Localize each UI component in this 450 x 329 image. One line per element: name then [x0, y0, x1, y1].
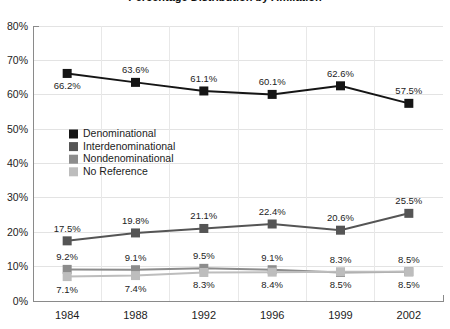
data-point-label: 60.1%	[259, 76, 286, 87]
data-point-marker	[63, 272, 72, 281]
legend-label: Denominational	[83, 127, 156, 139]
data-point-label: 61.1%	[190, 73, 217, 84]
data-point-label: 8.3%	[193, 279, 215, 290]
legend: DenominationalInterdenominationalNondeno…	[69, 127, 175, 177]
data-point-marker	[268, 220, 277, 229]
y-axis-tick-label: 60%	[7, 88, 28, 100]
data-point-label: 25.5%	[395, 195, 422, 206]
y-axis-tick-label: 10%	[7, 260, 28, 272]
x-axis-tick-label: 1992	[192, 309, 216, 321]
data-point-marker	[404, 99, 413, 108]
data-point-marker	[268, 268, 277, 277]
data-point-label: 20.6%	[327, 212, 354, 223]
data-point-marker	[199, 224, 208, 233]
data-point-label: 9.2%	[56, 251, 78, 262]
chart-container: Percentage Distribution by Affiliation 0…	[0, 0, 450, 329]
legend-label: Interdenominational	[83, 140, 175, 152]
chart-title: Percentage Distribution by Affiliation	[0, 0, 450, 3]
legend-label: No Reference	[83, 165, 148, 177]
x-axis-tick-label: 1984	[55, 309, 79, 321]
data-point-marker	[199, 86, 208, 95]
data-point-label: 66.2%	[54, 80, 81, 91]
data-point-label: 8.4%	[261, 279, 283, 290]
data-point-label: 8.5%	[398, 254, 420, 265]
data-point-marker	[404, 209, 413, 218]
legend-swatch	[69, 142, 78, 151]
legend-swatch	[69, 167, 78, 176]
line-chart: 0%10%20%30%40%50%60%70%80%19841988199219…	[0, 0, 450, 329]
data-point-marker	[336, 81, 345, 90]
legend-swatch	[69, 155, 78, 164]
data-point-marker	[268, 90, 277, 99]
x-axis-tick-label: 1988	[123, 309, 147, 321]
data-point-label: 19.8%	[122, 215, 149, 226]
data-point-label: 9.1%	[125, 252, 147, 263]
data-point-marker	[199, 268, 208, 277]
x-axis-tick-label: 1996	[260, 309, 284, 321]
data-point-label: 63.6%	[122, 64, 149, 75]
y-axis-tick-label: 40%	[7, 157, 28, 169]
data-point-label: 17.5%	[54, 223, 81, 234]
legend-label: Nondenominational	[83, 152, 173, 164]
y-axis-tick-label: 0%	[13, 295, 28, 307]
data-point-label: 7.1%	[56, 284, 78, 295]
data-point-label: 8.3%	[330, 254, 352, 265]
x-axis-tick-label: 2002	[397, 309, 421, 321]
data-point-label: 9.5%	[193, 250, 215, 261]
data-point-marker	[131, 78, 140, 87]
y-axis-tick-label: 20%	[7, 226, 28, 238]
legend-swatch	[69, 130, 78, 139]
data-point-label: 57.5%	[395, 85, 422, 96]
x-axis-tick-label: 1999	[328, 309, 352, 321]
y-axis-tick-label: 30%	[7, 191, 28, 203]
data-point-label: 8.5%	[330, 279, 352, 290]
y-axis-tick-label: 70%	[7, 54, 28, 66]
data-point-label: 9.1%	[261, 252, 283, 263]
data-point-marker	[336, 226, 345, 235]
data-point-marker	[131, 271, 140, 280]
data-point-marker	[336, 267, 345, 276]
data-point-label: 8.5%	[398, 279, 420, 290]
data-point-marker	[63, 236, 72, 245]
data-point-marker	[404, 267, 413, 276]
data-point-label: 21.1%	[190, 210, 217, 221]
y-axis-tick-label: 80%	[7, 20, 28, 32]
data-point-label: 62.6%	[327, 68, 354, 79]
y-axis-tick-label: 50%	[7, 123, 28, 135]
data-point-label: 7.4%	[125, 283, 147, 294]
data-point-marker	[131, 228, 140, 237]
data-point-label: 22.4%	[259, 206, 286, 217]
data-point-marker	[63, 69, 72, 78]
